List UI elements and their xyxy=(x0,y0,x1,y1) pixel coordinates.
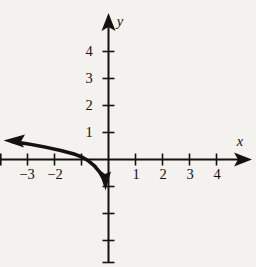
y-axis-label: y xyxy=(113,14,127,28)
y-tick-label-3: 3 xyxy=(82,71,96,85)
x-tick-label--3: −3 xyxy=(14,167,40,181)
graph-figure: −3 −2 1 2 3 4 1 2 3 4 y x xyxy=(0,0,256,267)
x-tick-label-2: 2 xyxy=(153,167,173,181)
y-tick-label-2: 2 xyxy=(82,98,96,112)
x-tick-label-4: 4 xyxy=(207,167,227,181)
y-tick-label-4: 4 xyxy=(82,44,96,58)
y-tick-label-1: 1 xyxy=(82,125,96,139)
coordinate-plane xyxy=(0,0,256,267)
curve-left-arrowhead xyxy=(4,135,26,148)
x-tick-label-1: 1 xyxy=(126,167,146,181)
x-tick-label-3: 3 xyxy=(180,167,200,181)
x-axis-label: x xyxy=(233,134,247,148)
x-tick-label--2: −2 xyxy=(42,167,68,181)
